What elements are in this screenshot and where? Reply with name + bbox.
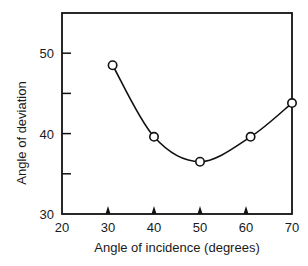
deviation-chart: 304050 203040506070 Angle of incidence (…: [0, 0, 308, 266]
data-point-circle: [150, 133, 158, 141]
data-point-circle: [108, 61, 116, 69]
deviation-curve: [113, 65, 292, 161]
data-point-circle: [196, 158, 204, 166]
x-tick-label: 40: [147, 220, 161, 235]
y-axis-ticks: 304050: [40, 46, 71, 222]
x-tick-label: 50: [193, 220, 207, 235]
x-axis-triangle-markers: [106, 206, 249, 214]
data-point-circle: [288, 99, 296, 107]
data-curve: [113, 65, 292, 161]
x-tick-label: 60: [239, 220, 253, 235]
plot-frame: [62, 13, 292, 214]
y-tick-label: 50: [40, 46, 54, 61]
triangle-marker: [106, 206, 111, 214]
triangle-marker: [244, 206, 249, 214]
x-tick-label: 30: [101, 220, 115, 235]
y-axis-title: Angle of deviation: [14, 81, 29, 184]
x-axis-title: Angle of incidence (degrees): [94, 240, 260, 255]
x-axis-ticks: 203040506070: [55, 220, 299, 235]
x-tick-label: 70: [285, 220, 299, 235]
y-tick-label: 30: [40, 207, 54, 222]
data-points: [108, 61, 296, 166]
x-tick-label: 20: [55, 220, 69, 235]
y-tick-label: 40: [40, 127, 54, 142]
triangle-marker: [152, 206, 157, 214]
data-point-circle: [246, 133, 254, 141]
plot-border: [62, 13, 292, 214]
triangle-marker: [198, 206, 203, 214]
